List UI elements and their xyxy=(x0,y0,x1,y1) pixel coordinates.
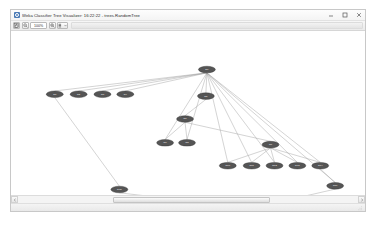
status-bar xyxy=(11,203,365,211)
graph-edge xyxy=(125,73,207,91)
graph-edge xyxy=(102,73,206,91)
arrow-left-icon[interactable] xyxy=(11,196,18,203)
window-title: Weka Classifier Tree Visualizer: 16:22:2… xyxy=(22,13,140,18)
graph-edge xyxy=(320,169,335,183)
graph-node[interactable]: N6 xyxy=(177,116,194,123)
scrollbar-track[interactable] xyxy=(18,196,358,203)
graph-edge xyxy=(55,73,207,91)
graph-edge xyxy=(252,148,271,162)
graph-node-shape[interactable] xyxy=(197,93,214,100)
graph-edge xyxy=(79,73,207,91)
graph-node[interactable]: N5 xyxy=(197,93,214,100)
graph-node-shape[interactable] xyxy=(157,140,174,147)
graph-node[interactable]: N16 xyxy=(327,183,344,190)
graph-edge xyxy=(271,148,275,162)
graph-node-shape[interactable] xyxy=(289,162,306,169)
zoom-out-button[interactable] xyxy=(22,22,29,29)
graph-node-shape[interactable] xyxy=(262,141,279,148)
graph-node[interactable]: N4 xyxy=(117,91,134,98)
graph-edge xyxy=(207,73,297,163)
graph-node-shape[interactable] xyxy=(327,183,344,190)
graph-node-shape[interactable] xyxy=(177,116,194,123)
graph-node-shape[interactable] xyxy=(111,186,128,193)
graph-edge xyxy=(165,122,185,139)
graph-node[interactable]: N12 xyxy=(266,162,283,169)
horizontal-scrollbar[interactable] xyxy=(11,195,365,203)
graph-node-shape[interactable] xyxy=(94,91,111,98)
graph-node-shape[interactable] xyxy=(117,91,134,98)
application-window: Weka Classifier Tree Visualizer: 16:22:2… xyxy=(10,9,366,212)
toolbar-empty-area xyxy=(71,22,364,29)
resize-grip-icon[interactable] xyxy=(357,205,363,211)
graph-edge xyxy=(207,73,228,163)
graph-canvas-area[interactable]: N0N1N2N3N4N5N6N7N8N9N10N11N12N13N14N15N1… xyxy=(11,31,365,195)
zoom-in-button[interactable] xyxy=(49,22,56,29)
arrow-right-icon[interactable] xyxy=(358,196,365,203)
graph-edge xyxy=(185,99,206,115)
graph-node-shape[interactable] xyxy=(266,162,283,169)
zoom-level-field[interactable]: 100% xyxy=(30,22,47,29)
title-bar[interactable]: Weka Classifier Tree Visualizer: 16:22:2… xyxy=(11,10,365,21)
layout-menu-button[interactable] xyxy=(57,22,68,29)
graph-node[interactable]: N10 xyxy=(219,162,236,169)
save-button[interactable] xyxy=(13,22,20,29)
graph-node-shape[interactable] xyxy=(312,162,329,169)
chevron-down-icon xyxy=(64,24,67,27)
graph-edge xyxy=(228,148,271,162)
weka-icon xyxy=(14,12,20,18)
graph-edge xyxy=(55,98,120,187)
minimize-icon[interactable] xyxy=(327,11,334,19)
graph-node-shape[interactable] xyxy=(243,162,260,169)
graph-node[interactable]: N11 xyxy=(243,162,260,169)
graph-edge xyxy=(207,73,320,163)
graph-node-shape[interactable] xyxy=(219,162,236,169)
graph-node[interactable]: N2 xyxy=(70,91,87,98)
graph-edge xyxy=(207,73,252,163)
graph-edge xyxy=(185,122,271,141)
graph-node[interactable]: N15 xyxy=(111,186,128,193)
scrollbar-thumb[interactable] xyxy=(113,197,269,203)
graph-node-shape[interactable] xyxy=(70,91,87,98)
graph-node[interactable]: N8 xyxy=(179,140,196,147)
graph-node-shape[interactable] xyxy=(179,140,196,147)
graph-node-shape[interactable] xyxy=(198,66,215,73)
toolbar: 100% xyxy=(11,21,365,31)
graph-node[interactable]: N13 xyxy=(289,162,306,169)
node-layer: N0N1N2N3N4N5N6N7N8N9N10N11N12N13N14N15N1… xyxy=(46,66,343,195)
edge-layer xyxy=(55,73,335,195)
graph-node[interactable]: N1 xyxy=(46,91,63,98)
graph-node[interactable]: N0 xyxy=(198,66,215,73)
close-icon[interactable] xyxy=(355,11,362,19)
maximize-icon[interactable] xyxy=(341,11,348,19)
graph-node[interactable]: N3 xyxy=(94,91,111,98)
graph-node[interactable]: N14 xyxy=(312,162,329,169)
window-controls xyxy=(327,10,364,20)
tree-graph[interactable]: N0N1N2N3N4N5N6N7N8N9N10N11N12N13N14N15N1… xyxy=(11,32,365,195)
graph-edge xyxy=(185,122,187,139)
graph-node[interactable]: N9 xyxy=(262,141,279,148)
graph-edge xyxy=(207,73,275,163)
graph-edge xyxy=(271,148,298,162)
graph-node-shape[interactable] xyxy=(46,91,63,98)
graph-node[interactable]: N7 xyxy=(157,140,174,147)
